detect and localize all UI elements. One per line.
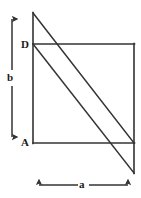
figure-canvas	[0, 0, 141, 198]
height-dimension-label: b	[7, 72, 13, 83]
base-dimension-label: a	[79, 179, 85, 190]
geometry-figure: D A b a	[0, 0, 141, 198]
vertex-label-a: A	[21, 137, 29, 148]
parallelogram-upper-diagonal	[33, 13, 134, 143]
vertex-label-d: D	[21, 39, 29, 50]
parallelogram-lower-diagonal	[33, 44, 134, 173]
